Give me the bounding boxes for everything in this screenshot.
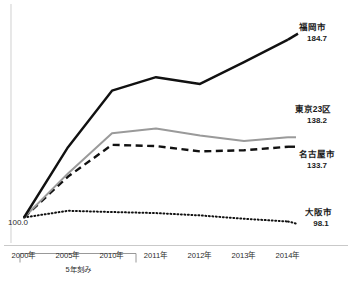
series-label-osaka: 大阪市 <box>305 208 332 217</box>
x-axis-tick-label: 2000年 <box>1 252 47 260</box>
baseline-value-label: 100.0 <box>8 219 28 227</box>
leader-line <box>288 221 296 223</box>
x-axis-tick-label: 2011年 <box>133 252 179 260</box>
series-value-nagoya: 133.7 <box>296 162 338 170</box>
x-axis-tick-label: 2005年 <box>45 252 91 260</box>
bracket-caption-label: 5年刻み <box>43 266 113 273</box>
x-axis-tick-label: 2012年 <box>177 252 223 260</box>
series-label-tokyo: 東京23区 <box>295 105 331 114</box>
x-axis-tick-label: 2010年 <box>89 252 135 260</box>
label-leader-lines <box>288 34 298 224</box>
series-label-fukuoka: 福岡市 <box>299 23 326 32</box>
series-value-tokyo: 138.2 <box>296 117 338 125</box>
x-axis-tick-label: 2013年 <box>221 252 267 260</box>
series-line-osaka <box>24 211 288 222</box>
series-value-osaka: 98.1 <box>300 220 342 228</box>
series-value-fukuoka: 184.7 <box>296 35 338 43</box>
x-axis-tick-label: 2014年 <box>265 252 311 260</box>
series-label-nagoya: 名古屋市 <box>299 150 335 159</box>
line-chart-container: 100.0 福岡市 184.7 東京23区 138.2 名古屋市 133.7 大… <box>0 0 355 285</box>
series-line-tokyo <box>24 128 288 217</box>
